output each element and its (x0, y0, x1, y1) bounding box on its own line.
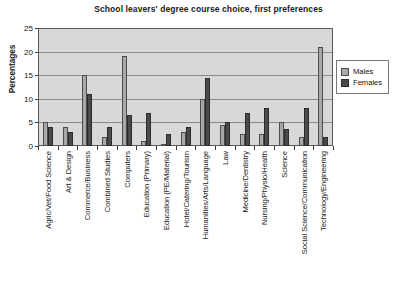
bar-group (235, 28, 255, 146)
y-axis-tick-label: 10 (13, 94, 33, 103)
x-axis-label-cell: Medicine/Dentistry (235, 151, 255, 281)
x-axis-tick (38, 146, 39, 150)
bar-females (323, 137, 328, 146)
x-axis-label-cell: Art & Design (58, 151, 78, 281)
x-axis-label-cell: Computers (117, 151, 137, 281)
x-axis-tick (254, 146, 255, 150)
x-axis-tick-label: Nursing/Physio/Health (260, 151, 269, 225)
x-axis-tick-label: Science (279, 151, 288, 178)
x-axis-label-cell: Education (PE/Material) (156, 151, 176, 281)
x-axis-label-cell: Hotel/Catering/Tourism (176, 151, 196, 281)
y-axis-tick-label: 15 (13, 71, 33, 80)
x-axis-tick-label: Combined Studies (102, 151, 111, 212)
bar-group (195, 28, 215, 146)
bar-females (245, 113, 250, 146)
x-axis-tick (97, 146, 98, 150)
legend-label-males: Males (353, 67, 373, 76)
bar-females (107, 127, 112, 146)
x-axis-tick (215, 146, 216, 150)
bar-females (186, 127, 191, 146)
x-axis-tick (235, 146, 236, 150)
x-axis-tick-label: Humanities/Arts/Language (201, 151, 210, 239)
bar-group (136, 28, 156, 146)
bar-group (58, 28, 78, 146)
bar-females (146, 113, 151, 146)
x-axis-label-cell: Nursing/Physio/Health (254, 151, 274, 281)
bar-groups (38, 28, 333, 146)
y-axis-tick-label: 5 (13, 118, 33, 127)
x-axis-label-cell: Humanities/Arts/Language (195, 151, 215, 281)
x-axis-label-cell: Science (274, 151, 294, 281)
bar-females (68, 132, 73, 146)
x-axis-labels: Agric/Vet/Food ScienceArt & DesignCommer… (38, 151, 333, 281)
legend: Males Females (336, 60, 389, 94)
legend-swatch-females-icon (341, 79, 349, 87)
x-axis-label-cell: Education (Primary) (136, 151, 156, 281)
x-axis-label-cell: Agric/Vet/Food Science (38, 151, 58, 281)
bar-females (205, 78, 210, 146)
bar-group (176, 28, 196, 146)
x-axis-tick-label: Hotel/Catering/Tourism (181, 151, 190, 227)
x-axis-tick (176, 146, 177, 150)
y-axis-tick-label: 0 (13, 142, 33, 151)
y-axis-tick-label: 25 (13, 24, 33, 33)
x-axis-label-cell: Technology/Engineering (313, 151, 333, 281)
x-axis-tick (313, 146, 314, 150)
bar-group (77, 28, 97, 146)
legend-swatch-males-icon (341, 68, 349, 76)
x-axis-label-cell: Social Science/Communication (294, 151, 314, 281)
bar-group (156, 28, 176, 146)
y-axis-tick-label: 20 (13, 47, 33, 56)
bar-females (304, 108, 309, 146)
x-axis-tick-label: Technology/Engineering (319, 151, 328, 231)
x-axis-tick-label: Commerce/Business (83, 151, 92, 220)
x-axis-tick-label: Education (PE/Material) (161, 151, 170, 230)
bar-females (166, 134, 171, 146)
x-axis-tick (136, 146, 137, 150)
x-axis-label-cell: Combined Studies (97, 151, 117, 281)
x-axis-tick (195, 146, 196, 150)
bar-group (313, 28, 333, 146)
x-axis-tick-label: Law (220, 151, 229, 165)
bar-females (264, 108, 269, 146)
bar-females (225, 122, 230, 146)
bar-males (318, 47, 323, 146)
x-axis-tick (156, 146, 157, 150)
x-axis-tick-label: Education (Primary) (142, 151, 151, 217)
bar-group (215, 28, 235, 146)
x-axis-tick-label: Agric/Vet/Food Science (43, 151, 52, 229)
x-axis-tick (77, 146, 78, 150)
legend-item-males: Males (341, 67, 382, 76)
x-axis-label-cell: Commerce/Business (77, 151, 97, 281)
x-axis-tick (333, 146, 334, 150)
x-axis-tick-label: Medicine/Dentistry (240, 151, 249, 213)
legend-item-females: Females (341, 78, 382, 87)
x-axis-tick-label: Social Science/Communication (299, 151, 308, 254)
bar-group (274, 28, 294, 146)
bar-group (254, 28, 274, 146)
x-axis-tick (294, 146, 295, 150)
bar-group (294, 28, 314, 146)
bar-females (48, 127, 53, 146)
chart-container: School leavers' degree course choice, fi… (0, 0, 417, 283)
bar-group (117, 28, 137, 146)
x-axis-tick-label: Computers (122, 151, 131, 188)
x-axis-ticks (38, 146, 333, 150)
bar-group (97, 28, 117, 146)
x-axis-tick (274, 146, 275, 150)
chart-title: School leavers' degree course choice, fi… (0, 4, 417, 14)
bar-group (38, 28, 58, 146)
x-axis-label-cell: Law (215, 151, 235, 281)
x-axis-tick (117, 146, 118, 150)
x-axis-tick (58, 146, 59, 150)
bar-females (87, 94, 92, 146)
bar-females (127, 115, 132, 146)
x-axis-tick-label: Art & Design (63, 151, 72, 193)
plot-area (38, 28, 333, 146)
legend-label-females: Females (353, 78, 382, 87)
bar-females (284, 129, 289, 146)
